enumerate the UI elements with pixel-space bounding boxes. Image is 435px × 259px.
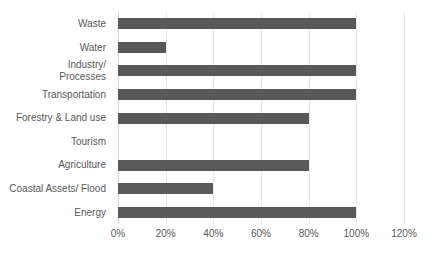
value-tick-label: 100% <box>344 228 370 239</box>
bar-row <box>118 36 404 60</box>
gridline <box>404 12 405 224</box>
value-tick-label: 120% <box>391 228 417 239</box>
category-label: Water <box>0 36 112 60</box>
value-axis: 0%20%40%60%80%100%120% <box>118 228 404 244</box>
bar <box>118 65 356 76</box>
bar <box>118 18 356 29</box>
bar-series <box>118 12 404 224</box>
bar <box>118 160 309 171</box>
category-axis: WasteWaterIndustry/ ProcessesTransportat… <box>0 12 112 224</box>
category-label: Coastal Assets/ Flood <box>0 177 112 201</box>
category-label: Energy <box>0 201 112 225</box>
bar-row <box>118 153 404 177</box>
bar-row <box>118 177 404 201</box>
category-label: Waste <box>0 12 112 36</box>
bar-row <box>118 59 404 83</box>
value-tick-label: 80% <box>299 228 319 239</box>
category-label: Industry/ Processes <box>0 59 112 83</box>
bar-row <box>118 83 404 107</box>
category-label: Transportation <box>0 83 112 107</box>
category-label: Agriculture <box>0 153 112 177</box>
category-label: Forestry & Land use <box>0 106 112 130</box>
bar-row <box>118 130 404 154</box>
bar <box>118 183 213 194</box>
bar <box>118 42 166 53</box>
bar-row <box>118 201 404 225</box>
value-tick-label: 60% <box>251 228 271 239</box>
value-tick-label: 20% <box>156 228 176 239</box>
bar <box>118 207 356 218</box>
bar-row <box>118 12 404 36</box>
plot-area <box>118 12 404 224</box>
value-tick-label: 0% <box>111 228 125 239</box>
category-label: Tourism <box>0 130 112 154</box>
horizontal-bar-chart: WasteWaterIndustry/ ProcessesTransportat… <box>0 0 435 259</box>
bar-row <box>118 106 404 130</box>
bar <box>118 89 356 100</box>
bar <box>118 113 309 124</box>
value-tick-label: 40% <box>203 228 223 239</box>
